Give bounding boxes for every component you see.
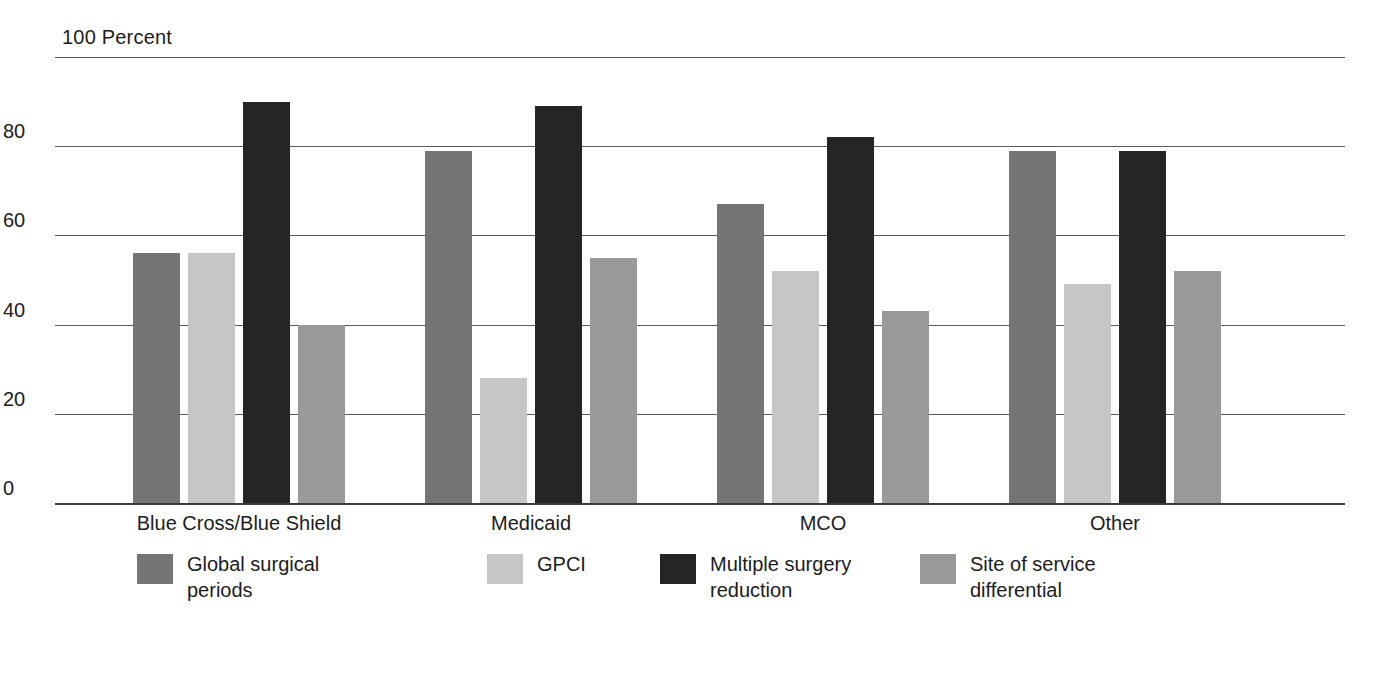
legend-label: Global surgical periods bbox=[187, 552, 387, 603]
bar bbox=[827, 137, 874, 503]
legend-item[interactable]: Global surgical periods bbox=[137, 552, 387, 603]
y-tick-label-20: 20 bbox=[3, 388, 49, 414]
axis-baseline bbox=[55, 503, 1345, 505]
bar bbox=[480, 378, 527, 503]
legend-item[interactable]: GPCI bbox=[487, 552, 586, 584]
x-axis-label: Other bbox=[949, 512, 1281, 535]
legend-swatch-icon bbox=[487, 554, 523, 584]
plot-area: 806040200 bbox=[55, 57, 1345, 503]
bar-group bbox=[425, 57, 637, 503]
legend-item[interactable]: Multiple surgery reduction bbox=[660, 552, 910, 603]
bar bbox=[882, 311, 929, 503]
bar-groups bbox=[55, 57, 1345, 503]
bar-group bbox=[133, 57, 345, 503]
legend-label: GPCI bbox=[537, 552, 586, 578]
bar bbox=[1064, 284, 1111, 503]
legend-swatch-icon bbox=[920, 554, 956, 584]
bar bbox=[590, 258, 637, 503]
bar bbox=[717, 204, 764, 503]
legend-swatch-icon bbox=[137, 554, 173, 584]
y-tick-label-60: 60 bbox=[3, 209, 49, 235]
legend-swatch-icon bbox=[660, 554, 696, 584]
bar bbox=[1009, 151, 1056, 503]
x-axis-label: MCO bbox=[657, 512, 989, 535]
bar bbox=[188, 253, 235, 503]
bar bbox=[1119, 151, 1166, 503]
bar-group bbox=[1009, 57, 1221, 503]
bar bbox=[1174, 271, 1221, 503]
bar bbox=[298, 325, 345, 503]
bar bbox=[133, 253, 180, 503]
y-tick-label-40: 40 bbox=[3, 299, 49, 325]
legend-item[interactable]: Site of service differential bbox=[920, 552, 1170, 603]
bar bbox=[772, 271, 819, 503]
bar bbox=[243, 102, 290, 503]
y-tick-label-80: 80 bbox=[3, 120, 49, 146]
chart-figure: 100 Percent 806040200 Blue Cross/Blue Sh… bbox=[0, 0, 1396, 680]
bar bbox=[535, 106, 582, 503]
x-axis-label: Medicaid bbox=[365, 512, 697, 535]
bar bbox=[425, 151, 472, 503]
chart-legend: Global surgical periodsGPCIMultiple surg… bbox=[0, 552, 1396, 642]
y-axis-title: 100 Percent bbox=[62, 26, 172, 49]
legend-label: Site of service differential bbox=[970, 552, 1170, 603]
legend-label: Multiple surgery reduction bbox=[710, 552, 910, 603]
x-axis-label: Blue Cross/Blue Shield bbox=[73, 512, 405, 535]
bar-group bbox=[717, 57, 929, 503]
y-tick-label-0: 0 bbox=[3, 477, 49, 503]
